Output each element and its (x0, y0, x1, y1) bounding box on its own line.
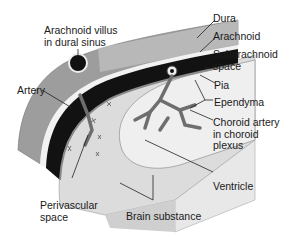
label-subarachnoid-line2: space (213, 61, 278, 73)
label-subarachnoid: Subarachnoid space (213, 49, 278, 72)
label-villus-line2: in dural sinus (44, 37, 118, 49)
label-ependyma: Ependyma (214, 97, 264, 109)
label-arachnoid: Arachnoid (213, 31, 260, 43)
label-choroid-line3: plexus (213, 140, 280, 152)
label-pia: Pia (214, 80, 229, 92)
label-subarachnoid-line1: Subarachnoid (213, 49, 278, 61)
label-choroid-line1: Choroid artery (213, 117, 280, 129)
meninges-diagram: Arachnoid villus in dural sinus Dura Ara… (0, 0, 295, 236)
label-artery: Artery (17, 85, 45, 97)
label-perivascular-space: Perivascular space (40, 200, 98, 223)
label-arachnoid-villus: Arachnoid villus in dural sinus (44, 25, 118, 48)
label-perivascular-line1: Perivascular (40, 200, 98, 212)
label-perivascular-line2: space (40, 212, 98, 224)
label-choroid-artery: Choroid artery in choroid plexus (213, 117, 280, 152)
arachnoid-villus (69, 54, 87, 72)
label-villus-line1: Arachnoid villus (44, 25, 118, 37)
label-ventricle: Ventricle (213, 181, 253, 193)
label-dura: Dura (213, 13, 236, 25)
label-brain-substance: Brain substance (126, 211, 201, 223)
artery-lumen (170, 69, 174, 73)
